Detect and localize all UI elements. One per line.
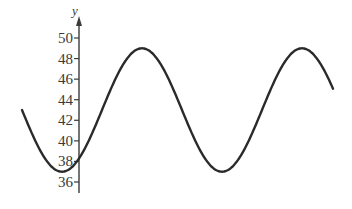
- y-axis: y 5048464442403836: [58, 3, 82, 193]
- y-tick-label: 48: [58, 51, 73, 67]
- y-tick-label: 42: [58, 112, 73, 128]
- sinusoid-chart: y 5048464442403836: [0, 0, 352, 209]
- y-tick-label: 44: [58, 92, 74, 108]
- y-tick-label: 40: [58, 133, 73, 149]
- y-tick-label: 36: [58, 174, 74, 190]
- y-tick-label: 50: [58, 30, 73, 46]
- y-tick-label: 46: [58, 71, 74, 87]
- y-axis-label: y: [70, 3, 78, 18]
